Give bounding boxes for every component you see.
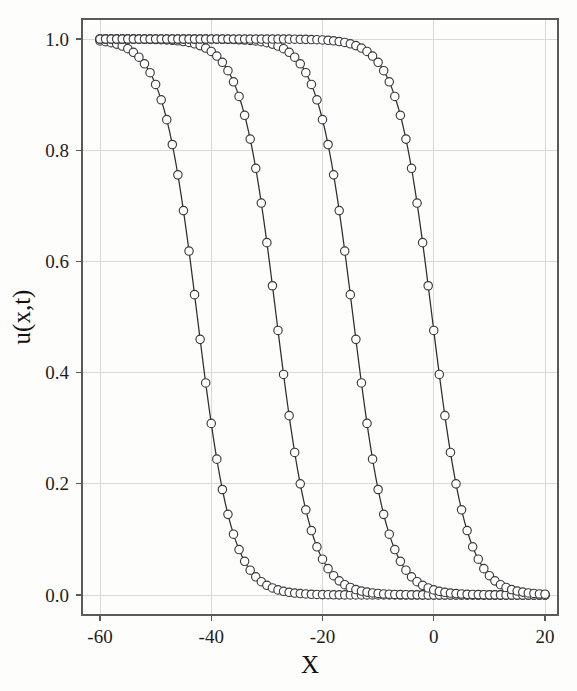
- data-point-marker: [246, 135, 254, 143]
- data-point-marker: [224, 510, 232, 518]
- data-point-marker: [207, 419, 215, 427]
- y-axis-title: u(x,t): [8, 290, 36, 345]
- data-point-marker: [252, 164, 260, 172]
- data-point-marker: [201, 379, 209, 387]
- data-point-marker: [413, 199, 421, 207]
- data-point-marker: [257, 199, 265, 207]
- data-point-marker: [290, 448, 298, 456]
- data-point-marker: [379, 510, 387, 518]
- data-point-marker: [157, 96, 165, 104]
- x-tick-label-4: 20: [536, 626, 555, 647]
- data-point-marker: [235, 92, 243, 100]
- data-point-marker: [463, 526, 471, 534]
- data-point-marker: [318, 555, 326, 563]
- data-point-marker: [296, 60, 304, 68]
- y-tick-label-0: 0.0: [45, 585, 69, 606]
- data-point-marker: [151, 80, 159, 88]
- data-point-marker: [424, 282, 432, 290]
- data-point-marker: [307, 526, 315, 534]
- x-tick-label-1: -40: [199, 626, 224, 647]
- data-point-marker: [474, 555, 482, 563]
- figure-page: -60-40-20020 0.00.20.40.60.81.0 X u(x,t): [0, 0, 577, 691]
- x-tick-label-3: 0: [429, 626, 439, 647]
- data-point-marker: [274, 326, 282, 334]
- data-point-marker: [363, 419, 371, 427]
- data-point-marker: [446, 448, 454, 456]
- data-point-marker: [190, 290, 198, 298]
- data-point-marker: [457, 506, 465, 514]
- chart-background: [0, 0, 577, 691]
- data-point-marker: [368, 455, 376, 463]
- data-point-marker: [435, 370, 443, 378]
- data-point-marker: [146, 68, 154, 76]
- data-point-marker: [302, 506, 310, 514]
- data-point-marker: [268, 282, 276, 290]
- y-tick-label-2: 0.4: [45, 362, 69, 383]
- data-point-marker: [307, 80, 315, 88]
- data-point-marker: [168, 140, 176, 148]
- data-point-marker: [396, 557, 404, 565]
- data-point-marker: [374, 485, 382, 493]
- y-tick-label-3: 0.6: [45, 251, 69, 272]
- data-point-marker: [313, 96, 321, 104]
- data-point-marker: [296, 480, 304, 488]
- data-point-marker: [302, 68, 310, 76]
- data-point-marker: [224, 66, 232, 74]
- data-point-marker: [480, 564, 488, 572]
- data-point-marker: [385, 78, 393, 86]
- data-point-marker: [140, 60, 148, 68]
- y-tick-label-1: 0.2: [45, 473, 69, 494]
- data-point-marker: [179, 206, 187, 214]
- data-point-marker: [218, 485, 226, 493]
- data-point-marker: [213, 455, 221, 463]
- data-point-marker: [240, 111, 248, 119]
- data-point-marker: [263, 238, 271, 246]
- data-point-marker: [329, 171, 337, 179]
- data-point-marker: [185, 247, 193, 255]
- data-point-marker: [229, 530, 237, 538]
- line-chart-figure: -60-40-20020 0.00.20.40.60.81.0 X u(x,t): [0, 0, 577, 691]
- data-point-marker: [218, 58, 226, 66]
- data-point-marker: [346, 290, 354, 298]
- data-point-marker: [352, 335, 360, 343]
- data-point-marker: [163, 115, 171, 123]
- x-axis-title: X: [301, 651, 319, 678]
- data-point-marker: [379, 66, 387, 74]
- data-point-marker: [335, 206, 343, 214]
- data-point-marker: [430, 326, 438, 334]
- data-point-marker: [418, 238, 426, 246]
- data-point-marker: [196, 335, 204, 343]
- data-point-marker: [318, 115, 326, 123]
- data-point-marker: [235, 545, 243, 553]
- data-point-marker: [441, 411, 449, 419]
- y-tick-label-4: 0.8: [45, 140, 69, 161]
- data-point-marker: [324, 140, 332, 148]
- x-tick-label-0: -60: [87, 626, 112, 647]
- data-point-marker: [279, 370, 287, 378]
- data-point-marker: [285, 411, 293, 419]
- data-point-marker: [385, 530, 393, 538]
- data-point-marker: [229, 78, 237, 86]
- y-tick-label-5: 1.0: [45, 29, 69, 50]
- data-point-marker: [391, 545, 399, 553]
- data-point-marker: [374, 58, 382, 66]
- data-point-marker: [452, 480, 460, 488]
- data-point-marker: [407, 164, 415, 172]
- data-point-marker: [391, 92, 399, 100]
- data-point-marker: [313, 543, 321, 551]
- x-tick-label-2: -20: [310, 626, 335, 647]
- data-point-marker: [357, 379, 365, 387]
- data-point-marker: [240, 557, 248, 565]
- data-point-marker: [396, 111, 404, 119]
- chart-canvas: -60-40-20020 0.00.20.40.60.81.0 X u(x,t): [0, 0, 577, 691]
- data-point-marker: [541, 590, 549, 598]
- data-point-marker: [341, 247, 349, 255]
- data-point-marker: [174, 171, 182, 179]
- data-point-marker: [324, 564, 332, 572]
- data-point-marker: [402, 135, 410, 143]
- data-point-marker: [468, 543, 476, 551]
